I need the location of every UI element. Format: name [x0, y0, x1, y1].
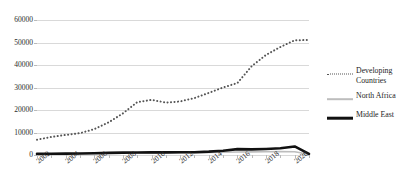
black-line-icon: [327, 113, 353, 123]
y-axis: 0100002000030000400005000060000: [0, 0, 37, 190]
y-tick-label: 20000: [14, 106, 33, 114]
legend-item-middle-east[interactable]: Middle East: [327, 110, 413, 123]
y-tick-label: 60000: [14, 16, 33, 24]
chart-legend: Developing Countries North Africa Middle…: [327, 66, 413, 129]
x-axis: 2002200420062008201020122014201620182020: [37, 155, 309, 190]
series-line-developing-countries: [37, 40, 309, 140]
plot-area: [37, 20, 309, 155]
legend-item-north-africa[interactable]: North Africa: [327, 91, 413, 104]
y-tick-label: 30000: [14, 84, 33, 92]
series-layer: [37, 20, 309, 155]
dotted-line-icon: [327, 69, 353, 79]
y-tick-label: 10000: [14, 129, 33, 137]
y-tick-label: 50000: [14, 39, 33, 47]
y-tick-label: 40000: [14, 61, 33, 69]
line-chart: 0100002000030000400005000060000 20022004…: [0, 0, 413, 190]
legend-item-label: Middle East: [356, 110, 394, 120]
legend-item-label: North Africa: [356, 91, 396, 101]
legend-item-label: Developing Countries: [356, 66, 392, 85]
gray-line-icon: [327, 94, 353, 104]
y-tick-label: 0: [29, 151, 33, 159]
legend-item-developing-countries[interactable]: Developing Countries: [327, 66, 413, 85]
